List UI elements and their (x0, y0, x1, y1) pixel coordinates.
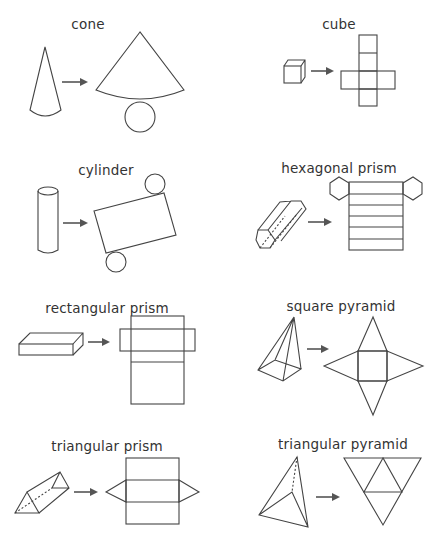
arrow-icon (62, 78, 88, 86)
square-pyramid-solid-icon (258, 317, 301, 381)
cube-net-icon (341, 35, 395, 106)
cone-net-icon (96, 32, 184, 132)
cylinder-net-icon (94, 174, 176, 272)
arrow-icon (74, 488, 98, 496)
rectangular-prism-solid-icon (19, 333, 83, 355)
cylinder-solid-icon (38, 187, 58, 253)
cone-solid-icon (30, 47, 61, 116)
arrow-icon (307, 345, 329, 353)
arrow-icon (88, 338, 110, 346)
hexagonal-prism-solid-icon (256, 201, 306, 248)
arrow-icon (311, 67, 334, 75)
triangular-pyramid-solid-icon (259, 457, 308, 527)
hexagonal-prism-net-icon (330, 177, 422, 250)
triangular-prism-net-icon (106, 458, 199, 524)
cube-solid-icon (284, 60, 305, 83)
triangular-pyramid-net-icon (344, 458, 421, 525)
arrow-icon (63, 219, 88, 227)
arrow-icon (308, 218, 332, 226)
arrow-icon (316, 493, 340, 501)
rectangular-prism-net-icon (120, 316, 195, 404)
square-pyramid-net-icon (324, 317, 423, 415)
nets-diagram (0, 0, 442, 553)
triangular-prism-solid-icon (15, 472, 69, 513)
